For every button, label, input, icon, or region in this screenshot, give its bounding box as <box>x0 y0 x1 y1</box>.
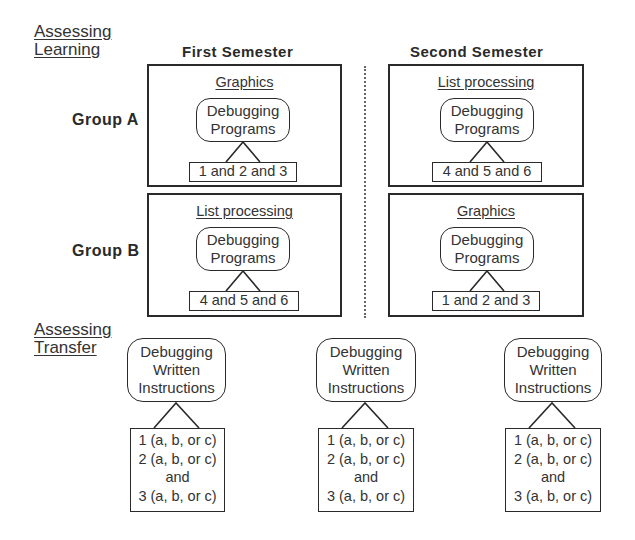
transfer-items-box-3: 1 (a, b, or c) 2 (a, b, or c) and 3 (a, … <box>505 428 601 512</box>
transfer-items-box-2: 1 (a, b, or c) 2 (a, b, or c) and 3 (a, … <box>318 428 414 512</box>
transfer-item: 2 (a, b, or c) <box>506 450 600 469</box>
debugging-written-instructions-node-2: Debugging Written Instructions <box>316 338 416 402</box>
transfer-item: 2 (a, b, or c) <box>131 450 224 469</box>
transfer-item: 3 (a, b, or c) <box>506 487 600 506</box>
node-line1: Debugging <box>317 343 415 361</box>
transfer-item: 1 (a, b, or c) <box>131 431 224 450</box>
debugging-written-instructions-node-3: Debugging Written Instructions <box>504 338 602 402</box>
transfer-item: 3 (a, b, or c) <box>319 487 413 506</box>
transfer-item: 1 (a, b, or c) <box>506 431 600 450</box>
node-line2: Written <box>317 361 415 379</box>
node-line3: Instructions <box>505 379 601 397</box>
conjunction-label: and <box>319 468 413 487</box>
conjunction-label: and <box>506 468 600 487</box>
transfer-item: 3 (a, b, or c) <box>131 487 224 506</box>
node-line2: Written <box>505 361 601 379</box>
transfer-item: 1 (a, b, or c) <box>319 431 413 450</box>
node-line1: Debugging <box>505 343 601 361</box>
conjunction-label: and <box>131 468 224 487</box>
transfer-item: 2 (a, b, or c) <box>319 450 413 469</box>
transfer-items-box-1: 1 (a, b, or c) 2 (a, b, or c) and 3 (a, … <box>130 428 225 512</box>
node-line3: Instructions <box>317 379 415 397</box>
